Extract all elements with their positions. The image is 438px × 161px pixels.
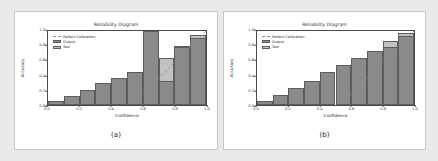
legend-item-test-b: Test (262, 45, 304, 49)
bar-output (174, 47, 190, 105)
bar-output (95, 83, 111, 105)
legend-label-output: Output (272, 40, 284, 44)
legend-a: Perfect Calibration Output Test (51, 33, 97, 51)
chart-title-b: Reliability Diagram (224, 22, 425, 27)
legend-label-test: Test (63, 45, 70, 49)
x-tick-mark (256, 105, 257, 107)
bar-output (257, 101, 273, 105)
bar-output (351, 58, 367, 105)
x-axis-label-b: Confidence (256, 113, 415, 118)
legend-item-perfect-calibration-b: Perfect Calibration (262, 35, 304, 39)
x-tick-mark (288, 105, 289, 107)
figure-b: Reliability Diagram Accuracy 0.00.20.40.… (224, 12, 425, 149)
dashed-line-icon (53, 36, 61, 37)
legend-label-perfect-calibration: Perfect Calibration (63, 35, 95, 39)
legend-item-output-a: Output (53, 40, 95, 44)
swatch-icon-output (262, 40, 270, 43)
x-tick-label: 0.6 (349, 107, 355, 111)
bar-output (48, 101, 64, 105)
x-tick-label: 0.4 (317, 107, 323, 111)
bar-output (159, 81, 175, 105)
chart-panel-a: Reliability Diagram Accuracy 0.00.20.40.… (14, 11, 218, 150)
x-tick-mark (47, 105, 48, 107)
x-tick-mark (111, 105, 112, 107)
legend-item-test-a: Test (53, 45, 95, 49)
x-tick-mark (207, 105, 208, 107)
x-tick-label: 1.0 (204, 107, 210, 111)
x-tick-label: 0.6 (140, 107, 146, 111)
y-axis-ticks-a: 0.00.20.40.60.81.0 (33, 30, 45, 106)
legend-label-output: Output (63, 40, 75, 44)
y-axis-label-a: Accuracy (20, 58, 25, 77)
x-axis-label-a: Confidence (47, 113, 207, 118)
legend-item-perfect-calibration-a: Perfect Calibration (53, 35, 95, 39)
swatch-icon-test (262, 46, 270, 49)
chart-title-a: Reliability Diagram (15, 22, 217, 27)
bar-output (398, 36, 414, 105)
x-tick-mark (143, 105, 144, 107)
x-tick-label: 0.2 (76, 107, 82, 111)
legend-item-output-b: Output (262, 40, 304, 44)
x-tick-label: 0.0 (253, 107, 259, 111)
bar-output (273, 95, 289, 105)
bar-output (190, 38, 206, 105)
y-axis-label-b: Accuracy (229, 58, 234, 77)
panel-sublabel-b: (b) (224, 131, 425, 139)
bar-output (64, 96, 80, 105)
bar-output (367, 51, 383, 105)
figure-a: Reliability Diagram Accuracy 0.00.20.40.… (15, 12, 217, 149)
x-tick-label: 0.8 (380, 107, 386, 111)
x-tick-label: 0.8 (172, 107, 178, 111)
bar-output (304, 81, 320, 105)
bar-output (320, 72, 336, 105)
bar-output (111, 78, 127, 105)
bar-output (143, 31, 159, 105)
chart-panel-b: Reliability Diagram Accuracy 0.00.20.40.… (223, 11, 426, 150)
figure-root: Reliability Diagram Accuracy 0.00.20.40.… (0, 0, 438, 161)
swatch-icon-output (53, 40, 61, 43)
bar-output (336, 65, 352, 105)
x-tick-mark (383, 105, 384, 107)
legend-label-test: Test (272, 45, 279, 49)
x-tick-mark (175, 105, 176, 107)
x-tick-mark (79, 105, 80, 107)
swatch-icon-test (53, 46, 61, 49)
x-tick-mark (351, 105, 352, 107)
legend-label-perfect-calibration: Perfect Calibration (272, 35, 304, 39)
x-tick-label: 0.2 (285, 107, 291, 111)
panel-sublabel-a: (a) (15, 131, 217, 139)
bar-output (383, 47, 399, 105)
x-tick-mark (415, 105, 416, 107)
bar-output (288, 88, 304, 105)
x-tick-mark (319, 105, 320, 107)
dashed-line-icon (262, 36, 270, 37)
bar-output (80, 90, 96, 105)
y-axis-ticks-b: 0.00.20.40.60.81.0 (242, 30, 254, 106)
x-tick-label: 0.0 (44, 107, 50, 111)
x-tick-label: 0.4 (108, 107, 114, 111)
bar-output (127, 72, 143, 105)
x-tick-label: 1.0 (412, 107, 418, 111)
legend-b: Perfect Calibration Output Test (260, 33, 306, 51)
